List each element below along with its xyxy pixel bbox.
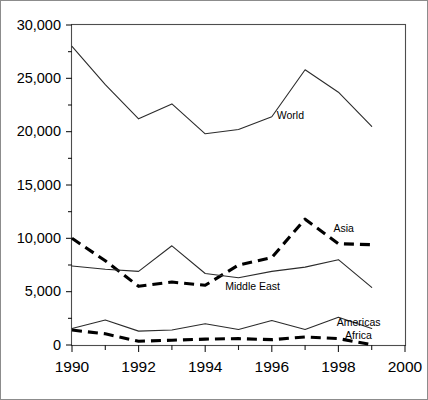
series-line-middle-east [72, 246, 372, 288]
series-label-middle-east: Middle East [225, 280, 280, 292]
x-axis-tick-labels: 199019921994199619982000 [55, 358, 423, 375]
series-label-americas: Americas [337, 316, 381, 328]
y-tick-label: 15,000 [17, 177, 61, 193]
x-tick-label: 1996 [255, 358, 289, 375]
x-tick-label: 1998 [321, 358, 355, 375]
series-label-world: World [277, 109, 304, 121]
line-chart: 05,00010,00015,00020,00025,00030,000 199… [1, 1, 428, 400]
series-lines [72, 46, 372, 344]
chart-page: 05,00010,00015,00020,00025,00030,000 199… [0, 0, 428, 400]
series-line-americas [72, 317, 372, 331]
series-labels: WorldAsiaMiddle EastAmericasAfrica [225, 109, 380, 341]
series-line-africa [72, 330, 372, 345]
y-tick-label: 20,000 [17, 123, 61, 139]
x-tick-label: 2000 [388, 358, 423, 375]
y-tick-label: 10,000 [17, 230, 61, 246]
series-label-africa: Africa [345, 329, 372, 341]
y-tick-label: 5,000 [25, 283, 61, 299]
y-tick-label: 30,000 [17, 17, 61, 33]
plot-frame-group [72, 25, 406, 346]
x-tick-label: 1990 [55, 358, 90, 375]
y-axis-tick-labels: 05,00010,00015,00020,00025,00030,000 [17, 17, 61, 353]
series-line-asia [72, 219, 372, 286]
x-tick-label: 1994 [188, 358, 223, 375]
y-tick-label: 25,000 [17, 70, 61, 86]
y-tick-label: 0 [53, 337, 61, 353]
series-label-asia: Asia [333, 222, 354, 234]
series-line-world [72, 46, 372, 133]
plot-frame [72, 25, 406, 346]
x-tick-label: 1992 [121, 358, 155, 375]
